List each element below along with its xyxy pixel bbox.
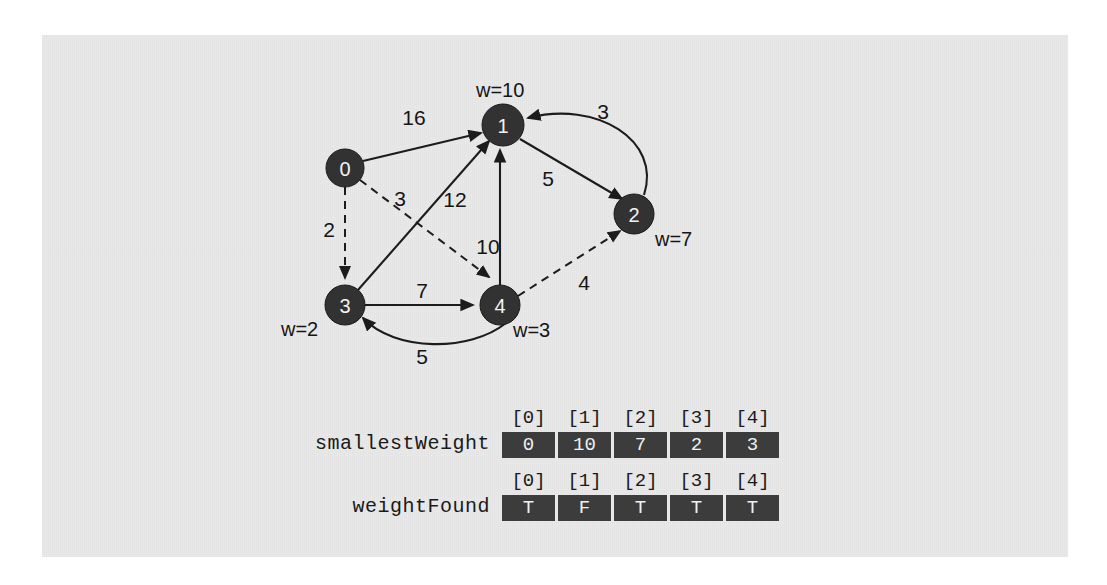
array-cell-value: T (670, 495, 723, 521)
graph-nodes: 01w=102w=73w=24w=3 (280, 79, 692, 341)
edge-weight-3-1: 12 (443, 188, 466, 211)
graph-node-weight-2: w=7 (654, 228, 692, 250)
edge-weight-1-2: 5 (542, 167, 554, 190)
graph-node-weight-3: w=2 (280, 318, 318, 340)
array-cell: [3]2 (670, 409, 723, 458)
array-cell: [2]T (614, 472, 667, 521)
array-block-weightFound: weightFound[0]T[1]F[2]T[3]T[4]T (240, 472, 779, 521)
array-cell-index: [1] (567, 472, 601, 491)
array-cell-index: [4] (735, 409, 769, 428)
graph-node-label-2: 2 (628, 204, 639, 226)
graph-node-weight-4: w=3 (512, 319, 550, 341)
array-cell: [4]T (726, 472, 779, 521)
array-cell-value: 2 (670, 432, 723, 458)
graph-node-label-4: 4 (494, 295, 505, 317)
array-cell: [2]7 (614, 409, 667, 458)
array-cell: [0]0 (502, 409, 555, 458)
graph-edge-0-to-1 (363, 133, 481, 161)
array-cells-smallestWeight: [0]0[1]10[2]7[3]2[4]3 (502, 409, 779, 458)
graph-edge-1-to-2 (520, 139, 622, 199)
array-cell-index: [4] (735, 472, 769, 491)
graph-node-weight-1: w=10 (475, 79, 524, 101)
array-cell-index: [3] (679, 472, 713, 491)
graph-edge-4-to-3 (363, 318, 506, 344)
array-cell-index: [0] (511, 472, 545, 491)
array-cell: [1]10 (558, 409, 611, 458)
array-cell-value: 0 (502, 432, 555, 458)
array-cell-index: [1] (567, 409, 601, 428)
graph-edge-4-to-2 (518, 231, 620, 296)
array-cell-index: [2] (623, 409, 657, 428)
array-name-smallestWeight: smallestWeight (240, 432, 502, 458)
graph-node-label-3: 3 (339, 295, 350, 317)
array-cell-value: 3 (726, 432, 779, 458)
edge-weight-4-2: 4 (578, 271, 590, 294)
edge-weight-2-1: 3 (597, 100, 609, 123)
array-cell-value: F (558, 495, 611, 521)
array-block-smallestWeight: smallestWeight[0]0[1]10[2]7[3]2[4]3 (240, 409, 779, 458)
array-cell-index: [3] (679, 409, 713, 428)
edge-weight-4-1: 10 (476, 235, 499, 258)
array-cell-index: [0] (511, 409, 545, 428)
array-cell-value: 10 (558, 432, 611, 458)
array-cell-value: 7 (614, 432, 667, 458)
graph-edge-0-to-4 (360, 180, 489, 277)
array-name-weightFound: weightFound (240, 495, 502, 521)
array-cell: [4]3 (726, 409, 779, 458)
array-cells-weightFound: [0]T[1]F[2]T[3]T[4]T (502, 472, 779, 521)
graph-edge-3-to-1 (358, 141, 489, 290)
figure-page: 1623127105345 01w=102w=73w=24w=3 smalles… (0, 0, 1107, 585)
edge-weight-0-3: 2 (323, 218, 335, 241)
array-cell: [3]T (670, 472, 723, 521)
graph-node-label-0: 0 (339, 158, 350, 180)
array-cell-value: T (726, 495, 779, 521)
edge-weight-4-3: 5 (416, 345, 428, 368)
edge-weight-0-1: 16 (402, 106, 425, 129)
graph-edge-weights: 1623127105345 (323, 100, 609, 368)
array-cell-index: [2] (623, 472, 657, 491)
edge-weight-3-4: 7 (416, 279, 428, 302)
array-cell: [1]F (558, 472, 611, 521)
array-cell-value: T (614, 495, 667, 521)
array-cell: [0]T (502, 472, 555, 521)
edge-weight-0-4: 3 (394, 187, 406, 210)
array-cell-value: T (502, 495, 555, 521)
graph-node-label-1: 1 (497, 115, 508, 137)
